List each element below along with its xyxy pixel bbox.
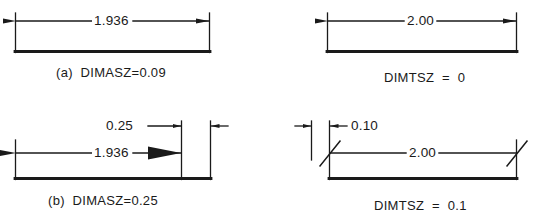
arrowhead-size-annotation: 0.25: [104, 119, 135, 133]
caption-figure-d: DIMTSZ = 0.1: [374, 199, 467, 212]
caption-figure-c: DIMTSZ = 0: [384, 71, 465, 84]
dimension-value-fig-b: 1.936: [92, 146, 131, 160]
tick-size-annotation: 0.10: [349, 119, 380, 133]
dimension-value-fig-d: 2.00: [407, 146, 438, 160]
caption-figure-b: (b) DIMASZ=0.25: [48, 194, 158, 207]
dimension-value-fig-a: 1.936: [92, 14, 131, 28]
technical-drawing-canvas: [0, 0, 540, 223]
dimension-value-fig-c: 2.00: [405, 14, 436, 28]
drawing-page: 1.936 2.00 1.936 2.00 0.25 0.10 (a) DIMA…: [0, 0, 540, 223]
caption-figure-a: (a) DIMASZ=0.09: [56, 66, 166, 79]
